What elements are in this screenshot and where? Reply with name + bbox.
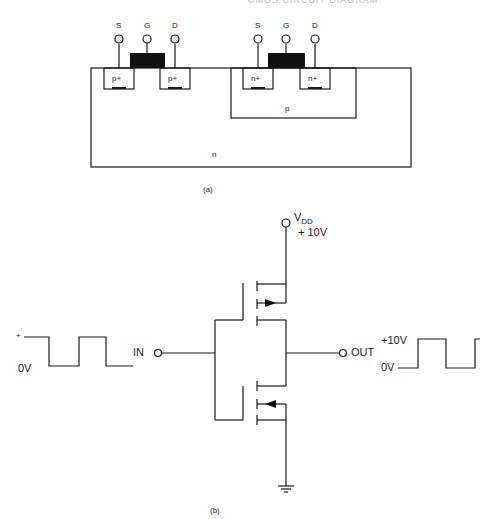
vdd-label: VDD: [294, 211, 313, 226]
pmos-left-diffusion-label: p+: [112, 74, 121, 83]
p-well-label: p: [285, 104, 289, 113]
output-low-label: 0V: [381, 361, 394, 373]
in-terminal: [155, 350, 162, 357]
out-label: OUT: [351, 346, 374, 358]
input-waveform: [24, 337, 133, 366]
pmos-right-diffusion-label: p+: [168, 74, 177, 83]
nmos-gate-label: G: [283, 21, 289, 30]
in-label: IN: [133, 346, 144, 358]
figure-a-caption: (a): [203, 185, 213, 194]
vdd-value: + 10V: [298, 226, 327, 238]
nmos-left-diffusion-label: n+: [251, 74, 260, 83]
pmos-arrow: [265, 299, 276, 307]
nmos-right-diffusion-label: n+: [308, 74, 317, 83]
pmos-source-label: S: [116, 21, 121, 30]
n-substrate-label: n: [212, 150, 216, 159]
pmos-gate: [130, 53, 165, 68]
vdd-terminal: [282, 219, 290, 227]
pmos-gate-label: G: [144, 21, 150, 30]
output-waveform: [398, 339, 480, 368]
input-high-label: +: [16, 331, 21, 340]
p-well: [231, 68, 356, 118]
nmos-source-label: S: [255, 21, 260, 30]
cmos-diagram: [0, 0, 496, 519]
nmos-drain-label: D: [312, 21, 318, 30]
out-terminal: [340, 350, 347, 357]
output-high-label: +10V: [381, 334, 407, 346]
page-header: CMOS CIRCUIT DIAGRAM: [248, 0, 378, 5]
pmos-drain-label: D: [172, 21, 178, 30]
input-low-label: 0V: [18, 362, 31, 374]
nmos-gate: [268, 53, 305, 68]
figure-b-caption: (b): [210, 506, 220, 515]
nmos-arrow: [265, 400, 276, 408]
